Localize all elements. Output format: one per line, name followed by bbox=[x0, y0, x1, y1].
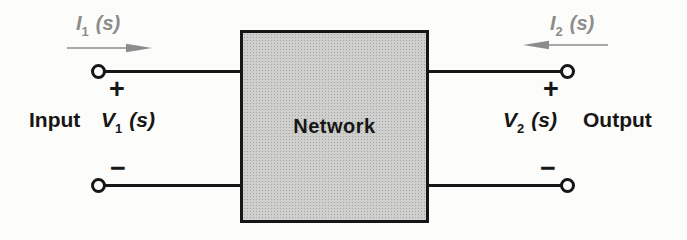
i2-subscript: 2 bbox=[556, 24, 563, 39]
wire-output-top bbox=[429, 70, 561, 73]
network-block: Network bbox=[240, 30, 429, 223]
v2-subscript: 2 bbox=[517, 121, 524, 136]
i2-symbol: I bbox=[550, 12, 556, 34]
output-label: Output bbox=[583, 108, 652, 132]
input-plus-sign: + bbox=[109, 76, 125, 103]
voltage-v2-label: V2(s) bbox=[503, 108, 557, 132]
input-bottom-terminal bbox=[91, 178, 106, 193]
input-label: Input bbox=[29, 108, 80, 132]
wire-input-bottom bbox=[105, 184, 240, 187]
v2-symbol: V bbox=[503, 108, 517, 131]
network-block-label: Network bbox=[293, 115, 375, 138]
output-minus-sign: − bbox=[540, 155, 556, 182]
input-top-terminal bbox=[91, 64, 106, 79]
output-bottom-terminal bbox=[560, 178, 575, 193]
wire-output-bottom bbox=[429, 184, 561, 187]
i1-subscript: 1 bbox=[82, 24, 89, 39]
current-i2-label: I2(s) bbox=[550, 12, 594, 35]
two-port-network-diagram: I1(s) I2(s) + − + − Input Output V1(s) V… bbox=[0, 0, 687, 240]
wire-input-top bbox=[105, 70, 240, 73]
i1-symbol: I bbox=[76, 12, 82, 34]
v2-argument: (s) bbox=[531, 108, 557, 131]
output-top-terminal bbox=[560, 64, 575, 79]
i1-argument: (s) bbox=[96, 12, 120, 34]
current-i1-label: I1(s) bbox=[76, 12, 120, 35]
voltage-v1-label: V1(s) bbox=[101, 108, 155, 132]
i2-argument: (s) bbox=[570, 12, 594, 34]
i1-direction-arrow-icon bbox=[66, 42, 154, 54]
v1-subscript: 1 bbox=[115, 121, 122, 136]
v1-argument: (s) bbox=[129, 108, 155, 131]
i2-direction-arrow-icon bbox=[521, 39, 609, 51]
input-minus-sign: − bbox=[110, 155, 126, 182]
v1-symbol: V bbox=[101, 108, 115, 131]
output-plus-sign: + bbox=[543, 76, 559, 103]
